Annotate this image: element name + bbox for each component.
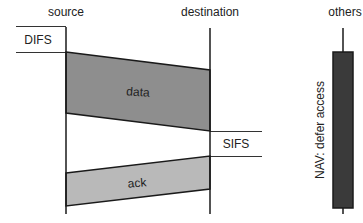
csma-ca-timing-diagram: source destination others DIFS data SIFS…: [0, 0, 363, 223]
sifs-label: SIFS: [223, 137, 250, 151]
nav-label: NAV: defer access: [313, 81, 327, 179]
difs-label: DIFS: [24, 33, 51, 47]
source-label: source: [48, 5, 84, 19]
others-label: others: [328, 5, 361, 19]
ack-label: ack: [127, 175, 148, 191]
destination-label: destination: [181, 5, 239, 19]
data-label: data: [126, 84, 151, 100]
nav-bar: [333, 52, 353, 208]
